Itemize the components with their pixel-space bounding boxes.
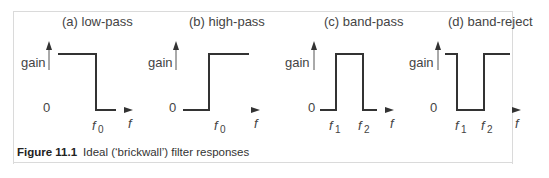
svg-text:1: 1 [461,124,467,135]
svg-text:f: f [329,118,334,133]
svg-text:2: 2 [364,124,370,135]
svg-text:0: 0 [169,100,176,115]
figure-caption: Figure 11.1Ideal (‘brickwall’) filter re… [17,146,249,158]
svg-text:0: 0 [43,100,50,115]
gain-label: gain [21,55,46,70]
svg-text:f: f [214,118,219,133]
svg-text:0: 0 [430,100,437,115]
svg-text:f: f [481,118,486,133]
panel-a-low-pass: gain 0 f0 f [21,41,133,135]
panel-c-band-pass: gain 0 f1 f2 f [285,41,395,135]
svg-text:0: 0 [220,124,226,135]
svg-text:f: f [92,118,97,133]
svg-text:f: f [515,116,520,131]
svg-text:gain: gain [148,55,173,70]
svg-text:2: 2 [487,124,493,135]
svg-text:f: f [254,116,259,131]
svg-text:f: f [390,116,395,131]
svg-text:1: 1 [335,124,341,135]
svg-text:f: f [358,118,363,133]
panel-b-high-pass: gain 0 f0 f [148,41,260,135]
figure-number: Figure 11.1 [17,146,77,158]
svg-text:f: f [455,118,460,133]
svg-text:0: 0 [308,100,315,115]
svg-text:gain: gain [285,55,310,70]
panel-d-band-reject: gain 0 f1 f2 f [409,41,521,135]
svg-text:0: 0 [98,124,104,135]
svg-text:f: f [128,116,133,131]
figure-caption-text: Ideal (‘brickwall’) filter responses [83,146,249,158]
svg-text:gain: gain [409,55,434,70]
